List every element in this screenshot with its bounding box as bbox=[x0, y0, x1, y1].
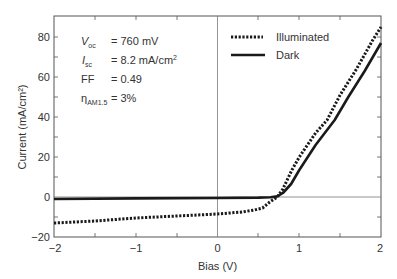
y-tick-60: 60 bbox=[38, 71, 50, 83]
x-tick-labels: −2 −1 0 1 2 bbox=[49, 242, 383, 254]
y-tick-40: 40 bbox=[38, 111, 50, 123]
x-axis-title: Bias (V) bbox=[198, 260, 237, 272]
isc-annotation: Isc bbox=[82, 54, 93, 68]
legend: Illuminated Dark bbox=[231, 31, 329, 61]
y-tick-neg20: −20 bbox=[31, 231, 50, 243]
eta-value: = 3% bbox=[111, 92, 137, 104]
y-tick-80: 80 bbox=[38, 31, 50, 43]
y-axis-title: Current (mA/cm²) bbox=[16, 85, 28, 170]
ff-annotation: FF bbox=[81, 73, 95, 85]
x-tick-2: 2 bbox=[377, 242, 383, 254]
x-tick-neg2: −2 bbox=[49, 242, 62, 254]
voc-annotation: Voc bbox=[81, 35, 96, 49]
x-tick-neg1: −1 bbox=[130, 242, 143, 254]
x-tick-0: 0 bbox=[214, 242, 220, 254]
y-tick-0: 0 bbox=[44, 191, 50, 203]
legend-dark-label: Dark bbox=[276, 49, 300, 61]
isc-value: = 8.2 mA/cm2 bbox=[111, 54, 177, 66]
ff-value: = 0.49 bbox=[111, 73, 142, 85]
eta-annotation: ηAM1.5 bbox=[81, 92, 107, 106]
y-tick-20: 20 bbox=[38, 151, 50, 163]
iv-chart: 80 60 40 20 0 −20 −2 −1 0 1 2 Bias (V) C… bbox=[0, 0, 397, 279]
legend-illuminated-label: Illuminated bbox=[276, 31, 329, 43]
voc-value: = 760 mV bbox=[111, 35, 159, 47]
cell-parameters: Voc = 760 mV Isc = 8.2 mA/cm2 FF = 0.49 … bbox=[81, 35, 177, 106]
x-tick-1: 1 bbox=[296, 242, 302, 254]
y-tick-labels: 80 60 40 20 0 −20 bbox=[31, 31, 50, 243]
